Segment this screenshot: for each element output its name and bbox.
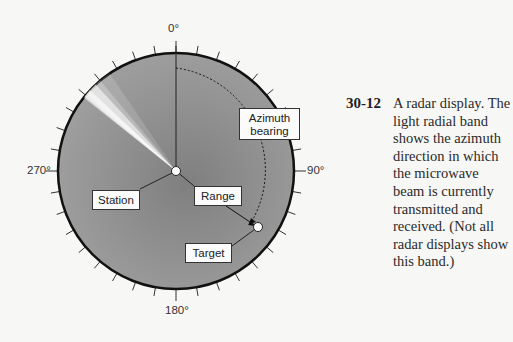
caption-line: this band.) (393, 253, 511, 271)
target-callout: Target (185, 243, 232, 263)
azimuth-bearing-callout: Azimuth bearing (239, 108, 300, 140)
caption-line: the microwave (393, 165, 511, 183)
figure-number: 30-12 (346, 95, 381, 112)
label-90-deg: 90° (307, 164, 324, 176)
caption-line: shows the azimuth (393, 130, 511, 148)
caption-line: light radial band (393, 113, 511, 131)
range-callout: Range (194, 186, 242, 206)
callout-line: Azimuth (240, 112, 299, 125)
callout-line: bearing (240, 125, 299, 138)
caption-line: A radar display. The (393, 95, 511, 113)
figure-caption: A radar display. The light radial band s… (393, 95, 511, 271)
label-270-deg: 270° (27, 164, 51, 176)
caption-line: direction in which (393, 148, 511, 166)
station-dot (172, 167, 181, 176)
caption-line: transmitted and (393, 201, 511, 219)
caption-line: radar displays show (393, 236, 511, 254)
caption-line: received. (Not all (393, 218, 511, 236)
station-callout: Station (92, 190, 140, 210)
label-180-deg: 180° (165, 304, 189, 316)
caption-line: beam is currently (393, 183, 511, 201)
target-dot (254, 223, 263, 232)
label-0-deg: 0° (168, 22, 179, 34)
